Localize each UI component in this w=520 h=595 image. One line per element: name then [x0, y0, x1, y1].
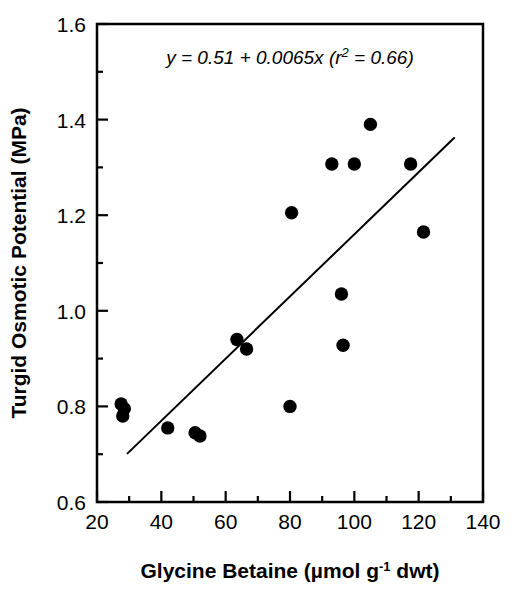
y-tick-label: 1.2 [57, 204, 86, 227]
plot-frame [97, 24, 483, 502]
x-axis-tick-labels: 20406080100120140 [85, 510, 500, 533]
y-tick-label: 1.0 [57, 300, 86, 323]
y-tick-label: 1.4 [57, 109, 87, 132]
data-point-marker [283, 400, 296, 413]
data-point-marker [285, 206, 298, 219]
plot-canvas: 20406080100120140 0.60.81.01.21.41.6 y =… [0, 0, 520, 595]
x-tick-label: 60 [214, 510, 237, 533]
y-tick-label: 0.8 [57, 395, 86, 418]
data-point-marker [364, 118, 377, 131]
y-axis-tick-labels: 0.60.81.01.21.41.6 [57, 13, 87, 514]
data-point-marker [161, 421, 174, 434]
data-point-marker [325, 157, 338, 170]
data-point-marker [240, 342, 253, 355]
axes-frame [97, 24, 483, 502]
regression-equation-annotation: y = 0.51 + 0.0065x (r2 = 0.66) [164, 45, 414, 69]
y-tick-label: 0.6 [57, 491, 86, 514]
data-point-marker [336, 339, 349, 352]
x-tick-label: 20 [85, 510, 108, 533]
x-tick-label: 80 [278, 510, 301, 533]
data-point-marker [193, 429, 206, 442]
data-point-marker [230, 333, 243, 346]
y-tick-label: 1.6 [57, 13, 86, 36]
y-axis-title: Turgid Osmotic Potential (MPa) [7, 107, 30, 418]
x-tick-label: 120 [401, 510, 436, 533]
data-point-marker [348, 157, 361, 170]
x-axis-title: Glycine Betaine (µmol g-1 dwt) [140, 559, 439, 583]
x-tick-label: 140 [465, 510, 500, 533]
data-point-marker [417, 225, 430, 238]
x-tick-label: 100 [337, 510, 372, 533]
data-point-marker [335, 287, 348, 300]
figure-scatter-plot: 20406080100120140 0.60.81.01.21.41.6 y =… [0, 0, 520, 595]
data-point-marker [116, 409, 129, 422]
data-point-marker [404, 157, 417, 170]
x-tick-label: 40 [150, 510, 173, 533]
